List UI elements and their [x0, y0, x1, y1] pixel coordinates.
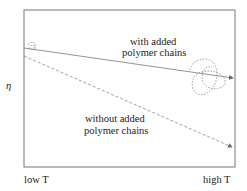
- polymer-coil-large: [190, 59, 225, 95]
- x-high-label: high T: [203, 174, 231, 185]
- y-axis-label: η: [6, 80, 11, 91]
- lower-label-2: polymer chains: [84, 125, 148, 136]
- upper-label-2: polymer chains: [122, 47, 186, 58]
- lower-label-1: without added: [85, 113, 145, 124]
- upper-label-1: with added: [130, 36, 176, 47]
- plot-frame: [24, 10, 235, 167]
- x-low-label: low T: [24, 174, 49, 185]
- diagram-canvas: [0, 0, 247, 191]
